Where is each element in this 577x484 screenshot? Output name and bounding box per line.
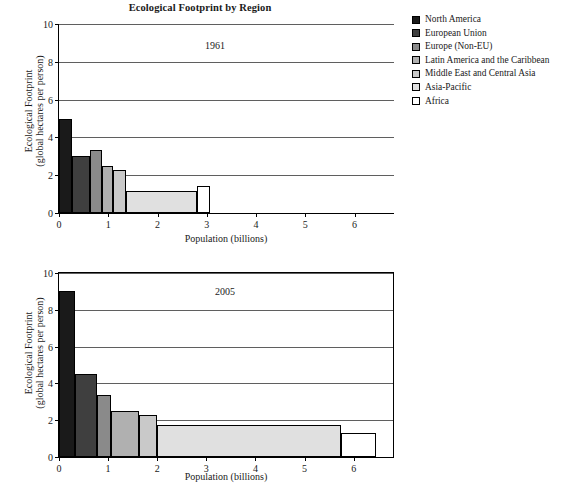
- y-gridline: [59, 273, 393, 274]
- legend-item[interactable]: Asia-Pacific: [412, 82, 575, 93]
- legend-swatch-icon: [412, 97, 420, 105]
- y-axis-label-2005: Ecological Footprint (global hectares pe…: [23, 273, 45, 433]
- plot-area-2005: 02468100123456: [58, 272, 394, 458]
- x-tick-mark: [355, 213, 356, 217]
- legend-item[interactable]: North America: [412, 14, 575, 25]
- x-tick-mark: [206, 457, 207, 461]
- chart-legend: North AmericaEuropean UnionEurope (Non-E…: [412, 14, 575, 109]
- plot-area-1961: 02468100123456: [58, 24, 394, 214]
- legend-swatch-icon: [412, 16, 420, 24]
- legend-swatch-icon: [412, 29, 420, 37]
- legend-label: Africa: [425, 96, 449, 107]
- y-gridline: [59, 100, 394, 101]
- bar-european-union[interactable]: [72, 156, 89, 213]
- x-tick-mark: [255, 457, 256, 461]
- y-gridline: [59, 24, 394, 25]
- x-tick-mark: [108, 457, 109, 461]
- bar-middle-east-and-central-asia[interactable]: [139, 415, 158, 457]
- x-tick-label: 2: [155, 219, 160, 230]
- x-tick-mark: [108, 213, 109, 217]
- x-tick-mark: [354, 457, 355, 461]
- x-tick-label: 3: [204, 219, 209, 230]
- bar-latin-america-and-the-caribbean[interactable]: [111, 411, 139, 457]
- x-tick-label: 5: [303, 219, 308, 230]
- legend-swatch-icon: [412, 83, 420, 91]
- x-tick-label: 4: [254, 219, 259, 230]
- bar-africa[interactable]: [197, 186, 210, 213]
- legend-item[interactable]: European Union: [412, 28, 575, 39]
- legend-label: Middle East and Central Asia: [425, 68, 535, 79]
- x-tick-mark: [305, 457, 306, 461]
- year-annotation-1961: 1961: [205, 40, 225, 51]
- legend-swatch-icon: [412, 70, 420, 78]
- bar-asia-pacific[interactable]: [157, 425, 341, 457]
- x-tick-mark: [305, 213, 306, 217]
- y-axis-label-line2: (global hectares per person): [34, 55, 45, 166]
- x-tick-label: 0: [57, 219, 62, 230]
- legend-item[interactable]: Middle East and Central Asia: [412, 68, 575, 79]
- bar-latin-america-and-the-caribbean[interactable]: [102, 166, 113, 213]
- legend-item[interactable]: Africa: [412, 96, 575, 107]
- x-tick-mark: [59, 457, 60, 461]
- bar-north-america[interactable]: [59, 119, 72, 214]
- y-tick-label: 6: [48, 94, 59, 105]
- y-axis-label-1961: Ecological Footprint (global hectares pe…: [23, 31, 45, 191]
- legend-item[interactable]: Europe (Non-EU): [412, 41, 575, 52]
- x-tick-label: 1: [106, 219, 111, 230]
- y-tick-label: 0: [48, 452, 59, 463]
- y-axis-label-line1: Ecological Footprint: [23, 312, 34, 395]
- y-tick-label: 8: [48, 304, 59, 315]
- bar-africa[interactable]: [341, 433, 375, 457]
- bar-north-america[interactable]: [59, 291, 75, 457]
- bar-european-union[interactable]: [75, 374, 97, 457]
- y-tick-label: 6: [48, 341, 59, 352]
- x-tick-mark: [157, 457, 158, 461]
- x-tick-mark: [59, 213, 60, 217]
- x-tick-mark: [207, 213, 208, 217]
- legend-label: Europe (Non-EU): [425, 41, 492, 52]
- chart-title: Ecological Footprint by Region: [0, 2, 400, 13]
- y-axis-label-line1: Ecological Footprint: [23, 70, 34, 153]
- legend-swatch-icon: [412, 56, 420, 64]
- y-gridline: [59, 310, 393, 311]
- year-annotation-2005: 2005: [215, 286, 235, 297]
- legend-label: North America: [425, 14, 481, 25]
- x-axis-label-1961: Population (billions): [58, 233, 394, 244]
- chart-panel-1961: 02468100123456 Population (billions) Eco…: [0, 14, 400, 246]
- y-tick-label: 8: [48, 56, 59, 67]
- legend-label: Asia-Pacific: [425, 82, 471, 93]
- y-gridline: [59, 383, 393, 384]
- bar-europe-non-eu[interactable]: [97, 395, 110, 457]
- y-gridline: [59, 62, 394, 63]
- legend-label: European Union: [425, 28, 487, 39]
- y-tick-label: 4: [48, 378, 59, 389]
- y-gridline: [59, 347, 393, 348]
- legend-label: Latin America and the Caribbean: [425, 55, 549, 66]
- bar-middle-east-and-central-asia[interactable]: [113, 170, 125, 213]
- y-tick-label: 10: [43, 19, 59, 30]
- chart-panel-2005: 02468100123456 Population (billions) Eco…: [0, 258, 400, 484]
- legend-swatch-icon: [412, 43, 420, 51]
- chart-figure: Ecological Footprint by Region 024681001…: [0, 0, 577, 484]
- x-tick-label: 6: [352, 219, 357, 230]
- y-tick-label: 10: [43, 268, 59, 279]
- y-tick-label: 4: [48, 132, 59, 143]
- x-tick-mark: [256, 213, 257, 217]
- x-axis-label-2005: Population (billions): [58, 471, 394, 482]
- y-gridline: [59, 137, 394, 138]
- y-tick-label: 2: [48, 170, 59, 181]
- x-tick-mark: [158, 213, 159, 217]
- y-tick-label: 2: [48, 415, 59, 426]
- bar-asia-pacific[interactable]: [126, 191, 197, 213]
- y-axis-label-line2: (global hectares per person): [34, 297, 45, 408]
- y-tick-label: 0: [48, 208, 59, 219]
- legend-item[interactable]: Latin America and the Caribbean: [412, 55, 575, 66]
- bar-europe-non-eu[interactable]: [90, 150, 102, 213]
